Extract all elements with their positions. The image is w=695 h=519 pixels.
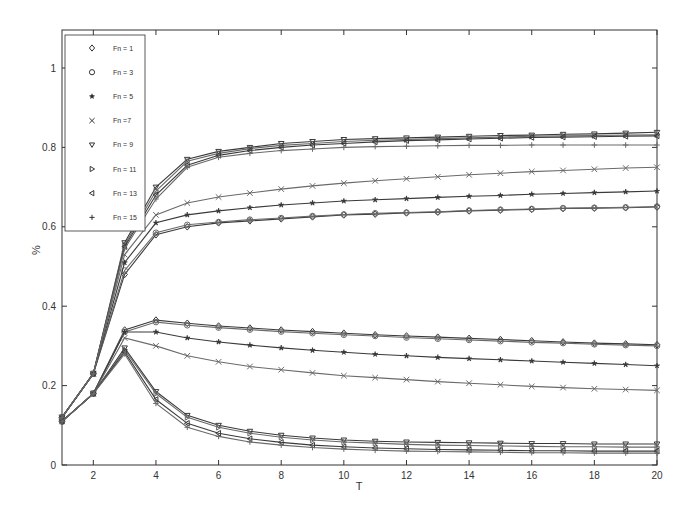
x-tick-label: 18 bbox=[589, 470, 601, 481]
plot-area bbox=[62, 30, 657, 465]
line-chart: 2468101214161820 00.20.40.60.81 T % Fn =… bbox=[0, 0, 695, 519]
x-tick-label: 8 bbox=[278, 470, 284, 481]
y-tick-label: 1 bbox=[50, 63, 56, 74]
legend-label: Fn = 1 bbox=[113, 45, 133, 52]
x-tick-label: 6 bbox=[216, 470, 222, 481]
y-tick-label: 0.8 bbox=[42, 142, 56, 153]
legend-label: Fn = 13 bbox=[113, 190, 137, 197]
x-tick-label: 12 bbox=[401, 470, 413, 481]
x-tick-label: 16 bbox=[526, 470, 538, 481]
x-tick-label: 2 bbox=[91, 470, 97, 481]
y-tick-label: 0.4 bbox=[42, 301, 56, 312]
y-tick-label: 0 bbox=[50, 460, 56, 471]
legend-label: Fn = 9 bbox=[113, 141, 133, 148]
y-axis-label: % bbox=[30, 245, 42, 255]
y-tick-label: 0.6 bbox=[42, 221, 56, 232]
x-tick-label: 4 bbox=[153, 470, 159, 481]
legend: Fn = 1Fn = 3Fn = 5Fn =7Fn = 9Fn = 11Fn =… bbox=[65, 35, 145, 231]
y-tick-label: 0.2 bbox=[42, 380, 56, 391]
legend-label: Fn =7 bbox=[113, 117, 131, 124]
legend-box bbox=[65, 35, 145, 231]
x-axis-label: T bbox=[356, 480, 363, 492]
legend-label: Fn = 15 bbox=[113, 214, 137, 221]
legend-label: Fn = 11 bbox=[113, 166, 137, 173]
x-tick-label: 14 bbox=[464, 470, 476, 481]
legend-label: Fn = 3 bbox=[113, 69, 133, 76]
legend-label: Fn = 5 bbox=[113, 93, 133, 100]
x-tick-label: 20 bbox=[651, 470, 663, 481]
x-tick-label: 10 bbox=[338, 470, 350, 481]
